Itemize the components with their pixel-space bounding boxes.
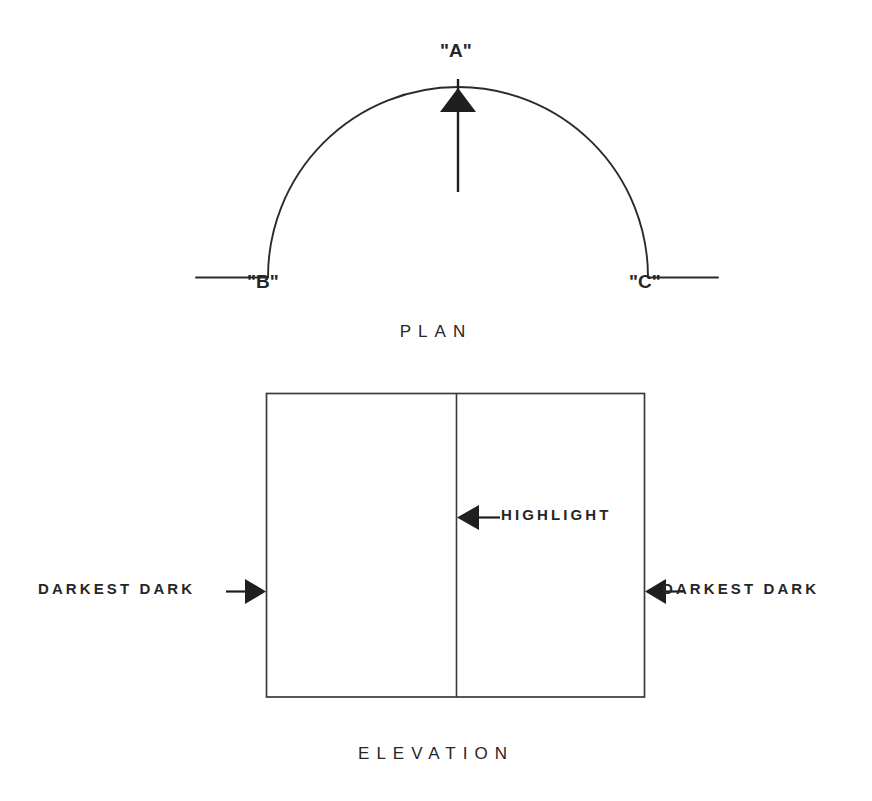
diagram-sheet: "A" "B" "C" PLAN HIGHLIGHT DARKEST DARK … [0,0,872,801]
plan-label-b: "B" [247,271,279,293]
highlight-arrowhead-icon [457,505,479,530]
elevation-caption: ELEVATION [0,744,872,764]
plan-view-group [196,79,718,278]
technical-drawing-canvas [0,0,872,801]
darkest-dark-left-label: DARKEST DARK [38,580,195,597]
plan-label-a: "A" [440,40,472,62]
elevation-view-group [226,394,685,698]
darkest-dark-left-arrowhead-icon [245,579,266,604]
plan-label-c: "C" [629,271,661,293]
darkest-dark-right-label: DARKEST DARK [662,580,819,597]
highlight-annotation-label: HIGHLIGHT [501,506,611,523]
elevation-rectangle [267,394,645,698]
plan-caption: PLAN [0,322,872,342]
view-direction-arrowhead-icon [440,88,476,112]
